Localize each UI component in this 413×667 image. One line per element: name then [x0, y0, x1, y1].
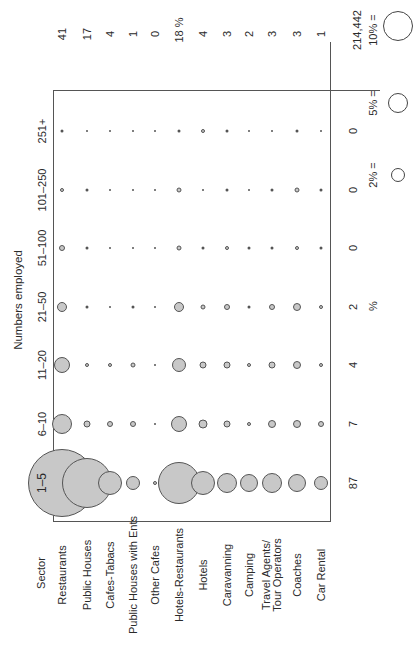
legend-circle — [391, 168, 405, 182]
bubble — [177, 188, 182, 193]
bubble — [86, 247, 89, 250]
legend-circle — [388, 93, 408, 113]
bubble — [154, 306, 156, 308]
sector-label: Caravanning — [222, 544, 233, 606]
percent-unit-label: % — [367, 301, 379, 311]
bubble — [247, 363, 251, 367]
bubble — [248, 306, 251, 309]
sector-total: 3 — [266, 31, 278, 37]
size-class-total: 4 — [347, 362, 359, 368]
bubble — [177, 246, 182, 251]
bubble — [217, 473, 237, 493]
bubble — [86, 306, 89, 309]
size-class-total: 0 — [347, 128, 359, 134]
sector-total: 3 — [221, 31, 233, 37]
bubble — [295, 246, 299, 250]
bubble — [178, 130, 181, 133]
bubble — [154, 364, 156, 366]
bubble — [131, 363, 136, 368]
bubble — [247, 422, 251, 426]
legend-label: 10% = — [367, 14, 379, 46]
sector-label: Public Houses — [82, 540, 93, 610]
bubble — [130, 421, 136, 427]
size-class-total: 87 — [347, 477, 359, 489]
bubble — [293, 303, 301, 311]
bubble — [154, 247, 156, 249]
sector-label: Hotels — [198, 559, 209, 590]
bubble — [225, 246, 229, 250]
sector-total: 17 — [81, 28, 93, 40]
bubble — [54, 357, 70, 373]
size-class-label: 101–250 — [36, 169, 48, 212]
bubble — [61, 130, 64, 133]
legend-label: 2% = — [367, 162, 379, 187]
bubble — [52, 414, 72, 434]
size-class-label: 21–50 — [36, 292, 48, 323]
sector-total: 1 — [315, 31, 327, 37]
bubble — [126, 476, 140, 490]
bubble — [132, 247, 134, 249]
bubble — [153, 481, 157, 485]
sector-total: 0 — [149, 31, 161, 37]
bubble — [320, 130, 322, 132]
sector-label: Cafes-Tabacs — [105, 541, 116, 608]
legend-circle — [383, 11, 413, 41]
bubble — [296, 130, 299, 133]
bubble — [202, 189, 204, 191]
bubble — [202, 247, 205, 250]
size-class-label: 6–10 — [36, 412, 48, 436]
bubble — [224, 421, 231, 428]
bubble — [107, 421, 113, 427]
bubble — [320, 189, 323, 192]
bubble — [226, 189, 229, 192]
bubble — [60, 188, 64, 192]
bubble — [132, 306, 135, 309]
bubble — [84, 421, 91, 428]
size-class-label: 11–20 — [36, 350, 48, 380]
bubble — [199, 420, 208, 429]
frame-bottom — [53, 521, 330, 522]
bubble — [248, 189, 250, 191]
bubble — [269, 362, 276, 369]
bubble — [318, 421, 324, 427]
sector-label: Other Cafes — [150, 545, 161, 604]
sector-header: Sector — [35, 557, 47, 589]
bubble — [154, 130, 156, 132]
bubble — [86, 189, 89, 192]
bubble — [271, 130, 273, 132]
bubble — [224, 362, 231, 369]
bubble — [248, 247, 251, 250]
legend-label: 5% = — [367, 90, 379, 115]
bubble — [293, 361, 301, 369]
bubble — [226, 130, 229, 133]
bubble — [269, 304, 275, 310]
size-class-total: 7 — [347, 421, 359, 427]
bubble — [191, 471, 215, 495]
bubble — [109, 189, 111, 191]
sector-total: 1 — [127, 31, 139, 37]
sector-label: Hotels-Restaurants — [174, 528, 185, 622]
axis-title: Numbers employed — [12, 250, 24, 350]
size-class-label: 51–100 — [36, 230, 48, 267]
bubble — [224, 304, 230, 310]
sector-label: Car Rental — [316, 549, 327, 602]
bubble — [200, 362, 207, 369]
size-class-total: 0 — [347, 187, 359, 193]
sector-total: 4 — [104, 31, 116, 37]
bubble — [132, 130, 134, 132]
bubble — [271, 247, 274, 250]
bubble — [319, 305, 323, 309]
bubble — [262, 473, 282, 493]
sector-total: 41 — [56, 28, 68, 40]
bubble — [288, 474, 306, 492]
sector-label: Travel Agents/Tour Operators — [261, 538, 283, 611]
bubble — [154, 423, 156, 425]
bubble — [154, 189, 156, 191]
bubble — [314, 476, 328, 490]
bubble — [293, 420, 301, 428]
sector-label: Camping — [244, 553, 255, 597]
bubble — [109, 306, 111, 308]
size-class-total: 2 — [347, 304, 359, 310]
sector-label: Restaurants — [57, 545, 68, 604]
bubble — [132, 189, 134, 191]
